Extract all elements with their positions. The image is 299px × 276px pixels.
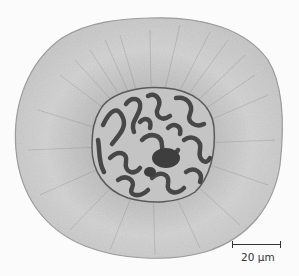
scale-bar-line xyxy=(232,244,281,245)
cell-image xyxy=(0,0,299,276)
scale-bar-tick-right xyxy=(280,241,281,248)
scale-bar: 20 µm xyxy=(232,240,282,270)
micrograph: 20 µm xyxy=(0,0,299,276)
scale-bar-label: 20 µm xyxy=(241,251,275,263)
